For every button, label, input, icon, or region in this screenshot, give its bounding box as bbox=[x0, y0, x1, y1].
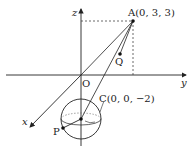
point-A-label: A(0, 3, 3) bbox=[127, 7, 175, 18]
point-C bbox=[79, 117, 83, 121]
radius-arrow bbox=[85, 121, 95, 123]
diagram-canvas: z y x O A(0, 3, 3) Q C(0, 0, −2) P bbox=[0, 0, 192, 148]
line-A-O bbox=[81, 21, 133, 75]
x-axis-label: x bbox=[22, 116, 28, 127]
point-Q-label: Q bbox=[115, 56, 123, 67]
point-P bbox=[61, 126, 65, 130]
point-C-label: C(0, 0, −2) bbox=[99, 93, 155, 104]
point-A bbox=[131, 19, 135, 23]
segment-A-Q bbox=[120, 21, 133, 54]
z-axis-label: z bbox=[71, 7, 78, 18]
segment-C-P bbox=[63, 119, 81, 128]
point-P-label: P bbox=[53, 126, 60, 137]
segment-A-C bbox=[81, 21, 133, 119]
y-axis-label: y bbox=[180, 77, 187, 88]
origin-label: O bbox=[82, 78, 90, 89]
